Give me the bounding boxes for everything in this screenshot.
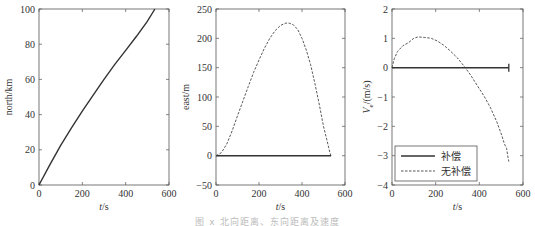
x-tick-label: 600 [162,188,177,199]
y-tick-label: 40 [25,109,35,120]
x-tick-label: 400 [295,188,310,199]
y-tick-label: 60 [25,74,35,85]
axes-frame [216,9,345,185]
y-tick-label: 1 [383,33,388,44]
x-axis-label: t/s [453,201,463,212]
x-tick-label: 600 [338,188,353,199]
x-tick-label: 600 [516,188,531,199]
y-tick-label: 0 [207,150,212,161]
x-tick-label: 0 [390,188,395,199]
y-tick-label: −2 [377,121,388,132]
y-axis-label: north/km [3,78,14,115]
compensated-line [39,9,155,185]
x-tick-label: 400 [118,188,133,199]
subplot-1: 0200400600020406080100t/snorth/km [3,4,177,213]
uncompensated-line [392,37,509,162]
y-tick-label: 0 [30,180,35,191]
y-tick-label: 50 [202,121,212,132]
y-tick-label: 20 [25,144,35,155]
subplot-2: 0200400600−50050100150200250t/seast/m [180,4,353,213]
y-axis-label: east/m [180,84,191,110]
y-tick-label: −3 [377,150,388,161]
x-axis-label: t/s [99,201,109,212]
x-tick-label: 400 [472,188,487,199]
y-tick-label: 150 [197,62,212,73]
figure-caption: 图 x 北向距离、东向距离及速度 [0,215,535,226]
legend-label: 补偿 [441,150,461,162]
y-tick-label: 200 [197,33,212,44]
x-tick-label: 200 [428,188,443,199]
y-axis-label: Ve/(m/s) [361,80,375,113]
uncompensated-line [216,23,331,156]
y-tick-label: −1 [377,92,388,103]
x-tick-label: 0 [37,188,42,199]
y-tick-label: 80 [25,39,35,50]
y-tick-label: −4 [377,180,388,191]
x-tick-label: 200 [75,188,90,199]
x-tick-label: 0 [214,188,219,199]
y-tick-label: 250 [197,4,212,15]
y-tick-label: 100 [197,92,212,103]
figure: 0200400600020406080100t/snorth/km0200400… [0,0,535,226]
y-tick-label: −50 [196,180,212,191]
subplot-3: 0200400600−4−3−2−1012t/sVe/(m/s)补偿无补偿 [361,4,531,213]
y-tick-label: 2 [383,4,388,15]
legend: 补偿无补偿 [395,146,477,181]
axes-frame [39,9,169,185]
x-axis-label: t/s [276,201,286,212]
y-tick-label: 0 [383,62,388,73]
x-tick-label: 200 [252,188,267,199]
legend-label: 无补偿 [441,165,471,177]
y-tick-label: 100 [20,4,35,15]
